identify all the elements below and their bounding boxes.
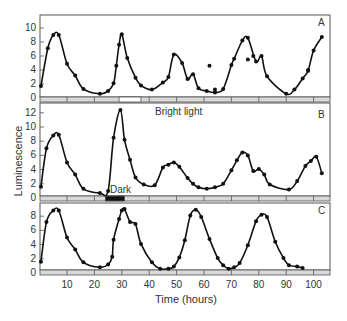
y-tick-label: 0 (22, 267, 36, 278)
luminescence-chart (0, 0, 347, 321)
x-tick-label: 30 (110, 279, 134, 290)
y-tick-label: 12 (22, 107, 36, 118)
y-tick-label: 6 (22, 224, 36, 235)
y-tick-label: 4 (22, 239, 36, 250)
panel-frames (40, 15, 330, 270)
y-tick-label: 4 (22, 64, 36, 75)
x-tick-label: 40 (137, 279, 161, 290)
x-tick-label: 90 (274, 279, 298, 290)
data-points (39, 32, 324, 270)
y-tick-label: 2 (22, 178, 36, 189)
panel-label-b: B (318, 109, 325, 120)
y-tick-label: 10 (22, 121, 36, 132)
y-tick-label: 2 (22, 78, 36, 89)
y-axis-label: Luminescence (12, 121, 24, 201)
x-tick-label: 80 (247, 279, 271, 290)
data-curves (41, 32, 322, 269)
x-tick-label: 50 (165, 279, 189, 290)
panel-label-c: C (318, 205, 325, 216)
bright-light-annotation: Bright light (155, 106, 202, 117)
y-tick-label: 4 (22, 164, 36, 175)
y-tick-label: 8 (22, 210, 36, 221)
x-axis-label: Time (hours) (155, 293, 217, 305)
dark-annotation: Dark (110, 184, 131, 195)
y-tick-label: 0 (22, 92, 36, 103)
y-tick-label: 6 (22, 50, 36, 61)
y-tick-label: 6 (22, 149, 36, 160)
y-tick-label: 8 (22, 36, 36, 47)
x-tick-label: 20 (82, 279, 106, 290)
y-tick-label: 2 (22, 253, 36, 264)
y-tick-label: 0 (22, 192, 36, 203)
x-tick-label: 100 (302, 279, 326, 290)
panel-label-a: A (318, 17, 325, 28)
y-tick-label: 8 (22, 135, 36, 146)
y-tick-label: 10 (22, 22, 36, 33)
light-dark-bars (40, 97, 330, 275)
x-tick-label: 60 (192, 279, 216, 290)
x-tick-label: 10 (55, 279, 79, 290)
x-tick-label: 70 (219, 279, 243, 290)
